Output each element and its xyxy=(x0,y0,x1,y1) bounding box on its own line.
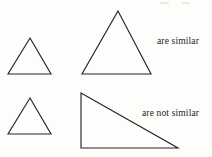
caption-are-not-similar: are not similar xyxy=(142,108,199,119)
caption-are-similar: are similar xyxy=(157,36,199,47)
scan-speck-icon xyxy=(160,2,169,4)
triangles-diagram xyxy=(0,0,212,157)
figure-container: are similar are not similar xyxy=(0,0,212,157)
scan-speck-icon xyxy=(182,2,190,4)
